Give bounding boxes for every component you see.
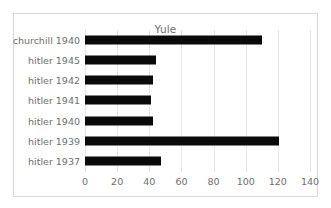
x-tick-label: 120: [269, 176, 287, 187]
gridline: [310, 30, 311, 171]
bar-row: hitler 1945: [85, 50, 310, 70]
bar-row: hitler 1941: [85, 90, 310, 110]
bar-row: hitler 1937: [85, 151, 310, 171]
bar: [85, 56, 156, 65]
x-tick-label: 20: [111, 176, 123, 187]
x-tick-mark: [310, 169, 311, 172]
x-tick-mark: [181, 169, 182, 172]
bar: [85, 76, 153, 85]
bar: [85, 96, 151, 105]
x-tick-mark: [85, 169, 86, 172]
y-tick-label: hitler 1937: [28, 155, 80, 166]
bar: [85, 116, 153, 125]
bar-row: hitler 1940: [85, 111, 310, 131]
bar: [85, 136, 279, 145]
y-tick-label: churchill 1940: [13, 35, 80, 46]
x-axis: 020406080100120140: [85, 171, 310, 191]
chart-figure: Yule churchill 1940hitler 1945hitler 194…: [13, 13, 318, 197]
bar-row: churchill 1940: [85, 30, 310, 50]
x-tick-label: 0: [82, 176, 88, 187]
bar-row: hitler 1942: [85, 70, 310, 90]
x-tick-label: 40: [143, 176, 155, 187]
bar: [85, 156, 161, 165]
x-tick-mark: [214, 169, 215, 172]
bar: [85, 36, 262, 45]
x-tick-label: 80: [208, 176, 220, 187]
bar-row: hitler 1939: [85, 131, 310, 151]
x-tick-mark: [246, 169, 247, 172]
y-tick-label: hitler 1939: [28, 135, 80, 146]
y-tick-label: hitler 1940: [28, 115, 80, 126]
x-tick-mark: [149, 169, 150, 172]
y-tick-label: hitler 1945: [28, 55, 80, 66]
x-tick-label: 100: [237, 176, 255, 187]
x-tick-label: 140: [301, 176, 319, 187]
x-tick-mark: [278, 169, 279, 172]
x-tick-label: 60: [175, 176, 187, 187]
y-tick-label: hitler 1941: [28, 95, 80, 106]
plot-area: churchill 1940hitler 1945hitler 1942hitl…: [85, 30, 310, 171]
x-tick-mark: [117, 169, 118, 172]
y-tick-label: hitler 1942: [28, 75, 80, 86]
